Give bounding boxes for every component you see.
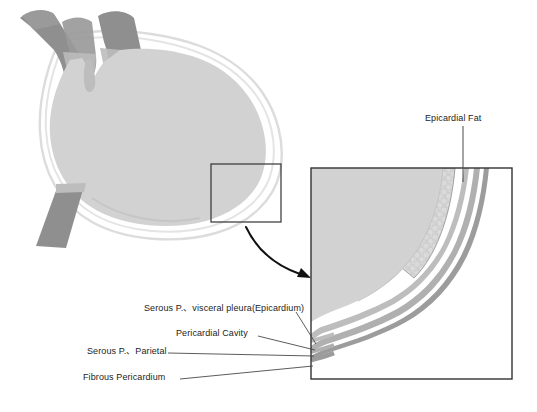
detail-inset-graphic (0, 0, 537, 412)
label-epicardial-fat: Epicardial Fat (425, 113, 481, 124)
leader-line-pericardial-cavity (258, 336, 315, 350)
pericardium-diagram: Epicardial Fat Serous P.、visceral pleura… (0, 0, 537, 412)
label-fibrous-pericardium: Fibrous Pericardium (83, 372, 165, 383)
label-pericardial-cavity: Pericardial Cavity (176, 328, 248, 339)
inset-contents (311, 168, 489, 360)
leader-line-serous-parietal (168, 353, 314, 356)
leader-line-fibrous-pericardium (180, 366, 313, 379)
label-serous-parietal: Serous P.、Parietal (87, 346, 167, 357)
label-serous-visceral: Serous P.、visceral pleura(Epicardium) (144, 303, 304, 314)
